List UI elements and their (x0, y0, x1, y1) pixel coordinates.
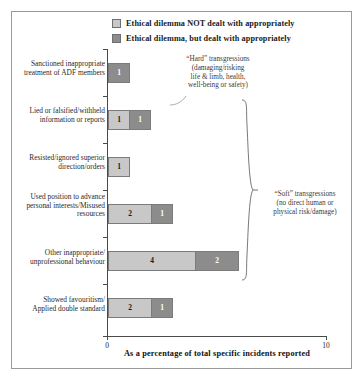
annotation-soft-line2: (no direct human or (256, 199, 354, 208)
bar-value-not-dealt-4: 2 (128, 210, 132, 218)
bar-segment-dealt-5: 2 (195, 251, 239, 271)
y-tick-2 (103, 143, 107, 144)
bar-row-5: 4 2 (108, 251, 239, 271)
legend-item-not-dealt: Ethical dilemma NOT dealt with appropria… (112, 17, 352, 30)
legend-label-not-dealt: Ethical dilemma NOT dealt with appropria… (126, 19, 295, 29)
bar-segment-not-dealt-2: 1 (108, 110, 130, 130)
bar-segment-dealt-4: 1 (151, 204, 173, 224)
x-tick-0 (107, 336, 108, 340)
bar-row-6: 2 1 (108, 298, 173, 318)
annotation-hard-line4: well-being or safety) (166, 81, 270, 90)
bar-value-dealt-5: 2 (215, 257, 219, 265)
annotation-hard-transgressions: “Hard” transgressions (damaging/risking … (166, 55, 270, 90)
bar-segment-dealt-2: 1 (129, 110, 151, 130)
category-label-4-line3: resources (9, 210, 105, 219)
bar-value-dealt-4: 1 (160, 210, 164, 218)
bar-segment-dealt-1: 1 (108, 63, 130, 83)
category-label-1: Sanctioned inappropriate treatment of AD… (9, 60, 105, 77)
chart-legend: Ethical dilemma NOT dealt with appropria… (112, 17, 352, 47)
bar-segment-dealt-6: 1 (151, 298, 173, 318)
category-label-column: Sanctioned inappropriate treatment of AD… (8, 49, 105, 336)
category-label-6: Showed favouritism/ Applied double stand… (9, 296, 105, 313)
category-label-2: Lied or falsified/withheld information o… (9, 107, 105, 124)
bar-value-not-dealt-2: 1 (117, 116, 121, 124)
bar-segment-not-dealt-5: 4 (108, 251, 196, 271)
bar-row-2: 1 1 (108, 110, 151, 130)
category-label-5: Other inappropriate/ unprofessional beha… (9, 249, 105, 266)
x-tick-10 (326, 336, 327, 340)
x-axis-line (107, 336, 327, 337)
x-axis-title: As a percentage of total specific incide… (107, 349, 327, 358)
bar-row-3: 1 (108, 157, 130, 177)
category-label-1-line2: treatment of ADF members (9, 69, 105, 78)
bar-value-not-dealt-5: 4 (150, 257, 154, 265)
annotation-hard-line3: life & limb, health, (166, 73, 270, 82)
y-tick-3 (103, 190, 107, 191)
chart-figure: Ethical dilemma NOT dealt with appropria… (0, 0, 363, 380)
bar-value-dealt-6: 1 (160, 304, 164, 312)
bar-row-1: 1 (108, 63, 130, 83)
category-label-3-line2: direction/orders (9, 163, 105, 172)
legend-item-dealt: Ethical dilemma, but dealt with appropri… (112, 32, 352, 45)
annotation-soft-line1: “Soft” transgressions (256, 190, 354, 199)
y-tick-0 (103, 49, 107, 50)
annotation-soft-line3: physical risk/damage) (256, 208, 354, 217)
annotation-hard-line2: (damaging/risking (166, 64, 270, 73)
annotation-hard-line1: “Hard” transgressions (166, 55, 270, 64)
legend-swatch-dark (112, 34, 121, 43)
category-label-2-line2: information or reports (9, 116, 105, 125)
legend-swatch-light (112, 19, 121, 28)
category-label-6-line2: Applied double standard (9, 305, 105, 314)
legend-label-dealt: Ethical dilemma, but dealt with appropri… (126, 34, 291, 44)
y-tick-5 (103, 284, 107, 285)
category-label-5-line2: unprofessional behaviour (9, 258, 105, 267)
bar-row-4: 2 1 (108, 204, 173, 224)
y-tick-4 (103, 237, 107, 238)
category-label-4: Used position to advance personal intere… (9, 193, 105, 219)
annotation-soft-transgressions: “Soft” transgressions (no direct human o… (256, 190, 354, 216)
category-label-3: Resisted/ignored superior direction/orde… (9, 154, 105, 171)
bar-value-dealt-2: 1 (138, 116, 142, 124)
bar-value-not-dealt-6: 2 (128, 304, 132, 312)
bar-value-dealt-1: 1 (117, 69, 121, 77)
bar-value-not-dealt-3: 1 (117, 163, 121, 171)
bar-segment-not-dealt-6: 2 (108, 298, 152, 318)
bar-segment-not-dealt-3: 1 (108, 157, 130, 177)
y-tick-1 (103, 96, 107, 97)
y-axis-line (107, 49, 108, 336)
bar-segment-not-dealt-4: 2 (108, 204, 152, 224)
